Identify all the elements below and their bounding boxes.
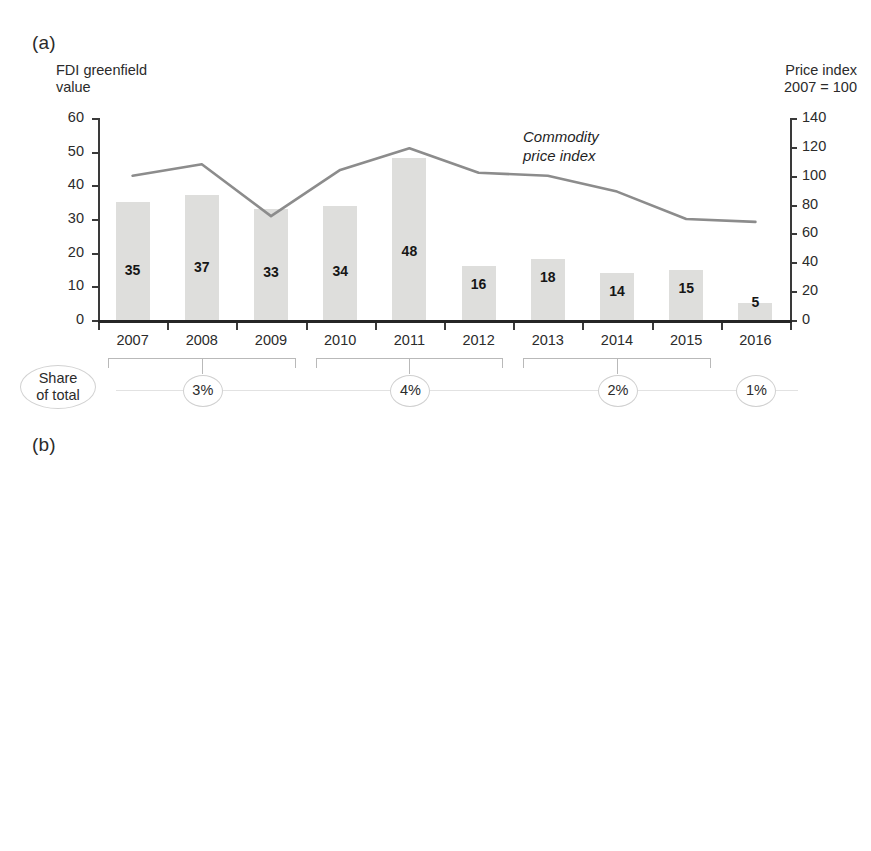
share-group-brace <box>523 358 711 370</box>
brace-left-stem <box>523 358 524 368</box>
share-of-total-caption: Share of total <box>20 365 96 409</box>
share-group-brace <box>108 358 296 370</box>
brace-left-stem <box>316 358 317 368</box>
brace-right-stem <box>502 358 503 368</box>
brace-right-stem <box>295 358 296 368</box>
chart-panel-b: (b) -10010203040506070803720074320081920… <box>0 425 871 851</box>
brace-left-stem <box>108 358 109 368</box>
share-of-total-value: 2% <box>598 375 638 407</box>
brace-center-stem <box>409 358 410 374</box>
brace-center-stem <box>202 358 203 374</box>
brace-center-stem <box>617 358 618 374</box>
brace-right-stem <box>710 358 711 368</box>
chart-panel-a: (a) FDI greenfield value Price index 200… <box>0 0 871 425</box>
share-group-brace <box>316 358 504 370</box>
panel-b-letter: (b) <box>32 434 56 456</box>
share-of-total-value: 3% <box>183 375 223 407</box>
